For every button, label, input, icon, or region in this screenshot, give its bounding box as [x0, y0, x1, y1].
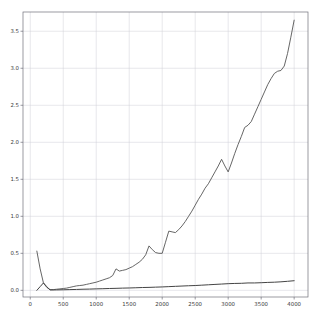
y-tick-label: 3.0: [10, 65, 19, 71]
y-tick-label: 3.5: [10, 28, 19, 34]
x-tick-label: 3500: [254, 301, 268, 307]
x-tick-label: 4000: [287, 301, 301, 307]
x-tick-label: 1000: [89, 301, 103, 307]
line-chart: 05001000150020002500300035004000 0.00.51…: [0, 0, 316, 328]
x-tick-label: 1500: [122, 301, 136, 307]
x-tick-label: 3000: [221, 301, 235, 307]
y-tick-label: 1.0: [10, 213, 19, 219]
y-tick-label: 0.0: [10, 287, 19, 293]
x-tick-label: 0: [29, 301, 33, 307]
y-tick-label: 2.5: [10, 102, 19, 108]
y-tick-label: 0.5: [10, 250, 19, 256]
x-tick-label: 500: [58, 301, 69, 307]
chart-background: [0, 0, 316, 328]
x-tick-label: 2000: [155, 301, 169, 307]
y-tick-label: 1.5: [10, 176, 19, 182]
y-tick-label: 2.0: [10, 139, 19, 145]
x-tick-label: 2500: [188, 301, 202, 307]
chart-figure: 05001000150020002500300035004000 0.00.51…: [0, 0, 316, 328]
